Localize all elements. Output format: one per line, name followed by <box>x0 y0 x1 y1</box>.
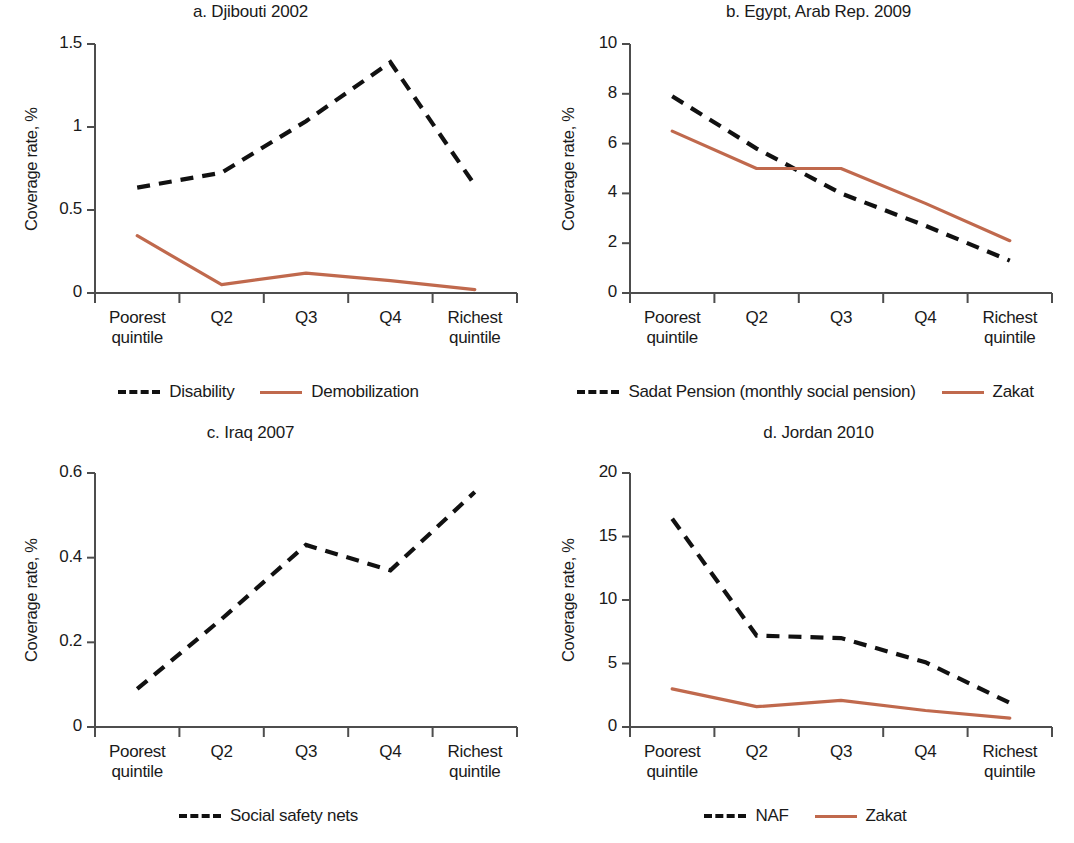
legend-entry-b-0[interactable]: Sadat Pension (monthly social pension) <box>577 382 915 402</box>
x-tick-label: Richestquintile <box>968 308 1052 348</box>
x-tick-label: Q3 <box>264 742 348 762</box>
x-tick-label: Richestquintile <box>433 742 517 782</box>
legend-entry-b-1[interactable]: Zakat <box>942 382 1034 402</box>
solid-line-swatch-icon <box>815 815 857 818</box>
series-line-d-1 <box>672 689 1010 718</box>
x-tick-label: Q4 <box>348 308 432 328</box>
series-line-c-0 <box>137 492 475 689</box>
x-tick-label: Poorestquintile <box>95 742 179 782</box>
legend-entry-c-0[interactable]: Social safety nets <box>179 806 358 826</box>
legend-c: Social safety nets <box>0 806 537 826</box>
legend-label: Zakat <box>993 382 1034 402</box>
solid-line-swatch-icon <box>260 391 302 394</box>
series-line-d-0 <box>672 519 1010 703</box>
legend-label: Zakat <box>866 806 907 826</box>
chart-panel-c: c. Iraq 2007 00.20.40.6Coverage rate, %P… <box>0 421 537 843</box>
x-tick-label: Q3 <box>799 308 883 328</box>
chart-panel-a: a. Djibouti 2002 00.511.5Coverage rate, … <box>0 0 537 421</box>
dashed-line-swatch-icon <box>118 390 160 394</box>
multi-panel-line-chart-figure: a. Djibouti 2002 00.511.5Coverage rate, … <box>0 0 1074 843</box>
y-axis-title-b: Coverage rate, % <box>559 107 578 231</box>
plot-area-a <box>0 0 537 421</box>
legend-d: NAFZakat <box>537 806 1074 826</box>
dashed-line-swatch-icon <box>704 814 746 818</box>
x-tick-label: Q3 <box>799 742 883 762</box>
x-tick-label: Q4 <box>883 742 967 762</box>
dashed-line-swatch-icon <box>179 814 221 818</box>
legend-label: NAF <box>755 806 788 826</box>
x-tick-label: Q2 <box>714 742 798 762</box>
chart-panel-b: b. Egypt, Arab Rep. 2009 0246810Coverage… <box>537 0 1074 421</box>
plot-area-b <box>537 0 1074 421</box>
y-axis-title-c: Coverage rate, % <box>22 538 41 662</box>
solid-line-swatch-icon <box>942 391 984 394</box>
x-tick-label: Richestquintile <box>968 742 1052 782</box>
legend-entry-a-1[interactable]: Demobilization <box>260 382 418 402</box>
legend-entry-d-0[interactable]: NAF <box>704 806 788 826</box>
x-tick-label: Q2 <box>179 308 263 328</box>
x-tick-label: Q2 <box>714 308 798 328</box>
x-tick-label: Poorestquintile <box>95 308 179 348</box>
x-tick-label: Q4 <box>883 308 967 328</box>
x-tick-label: Richestquintile <box>433 308 517 348</box>
series-line-a-1 <box>137 236 475 290</box>
x-tick-label: Q2 <box>179 742 263 762</box>
series-line-a-0 <box>137 62 475 187</box>
legend-entry-a-0[interactable]: Disability <box>118 382 234 402</box>
legend-a: DisabilityDemobilization <box>0 382 537 402</box>
dashed-line-swatch-icon <box>577 390 619 394</box>
x-tick-label: Poorestquintile <box>630 742 714 782</box>
legend-label: Social safety nets <box>230 806 358 826</box>
legend-label: Sadat Pension (monthly social pension) <box>628 382 915 402</box>
series-line-b-0 <box>672 96 1010 260</box>
legend-label: Disability <box>169 382 234 402</box>
series-line-b-1 <box>672 131 1010 241</box>
y-axis-title-d: Coverage rate, % <box>559 538 578 662</box>
legend-b: Sadat Pension (monthly social pension)Za… <box>537 382 1074 402</box>
legend-entry-d-1[interactable]: Zakat <box>815 806 907 826</box>
y-axis-title-a: Coverage rate, % <box>22 107 41 231</box>
chart-panel-d: d. Jordan 2010 05101520Coverage rate, %P… <box>537 421 1074 843</box>
x-tick-label: Poorestquintile <box>630 308 714 348</box>
x-tick-label: Q4 <box>348 742 432 762</box>
x-tick-label: Q3 <box>264 308 348 328</box>
legend-label: Demobilization <box>311 382 418 402</box>
